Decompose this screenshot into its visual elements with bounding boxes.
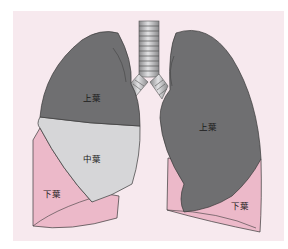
lung-diagram: 上葉 中葉 下葉 上葉 下葉 xyxy=(0,0,288,249)
label-right-middle-lobe: 中葉 xyxy=(83,154,101,164)
label-right-lower-lobe: 下葉 xyxy=(43,189,61,199)
trachea xyxy=(130,21,168,99)
label-right-upper-lobe: 上葉 xyxy=(83,93,101,103)
label-left-upper-lobe: 上葉 xyxy=(199,122,217,132)
label-left-lower-lobe: 下葉 xyxy=(231,201,249,211)
right-upper-lobe xyxy=(40,32,140,126)
